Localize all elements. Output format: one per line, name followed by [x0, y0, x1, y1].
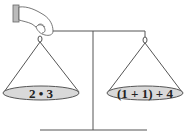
- hand-icon: [13, 5, 53, 35]
- left-pan: 2 • 3: [3, 36, 79, 101]
- right-pan: (1 + 1) + 4: [107, 37, 183, 101]
- right-pan-label: (1 + 1) + 4: [117, 86, 173, 101]
- left-pan-label: 2 • 3: [29, 86, 54, 101]
- balance-scale-diagram: (1 + 1) + 4 2 • 3: [0, 0, 185, 139]
